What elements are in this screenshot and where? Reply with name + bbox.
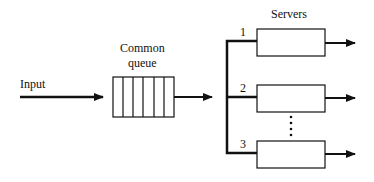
server-2-number: 2 <box>240 82 246 95</box>
server-1-box <box>257 29 325 56</box>
server-2-box <box>257 85 325 112</box>
input-label: Input <box>20 78 45 91</box>
server-3-box <box>257 141 325 168</box>
queue-label-line1: Common <box>120 42 165 55</box>
queue-diagram <box>0 0 374 182</box>
servers-label: Servers <box>271 8 307 21</box>
server-3-number: 3 <box>240 138 246 151</box>
ellipsis-dots <box>290 116 293 137</box>
common-queue <box>113 77 174 117</box>
server-1-number: 1 <box>240 26 246 39</box>
queue-label-line2: queue <box>128 57 157 70</box>
